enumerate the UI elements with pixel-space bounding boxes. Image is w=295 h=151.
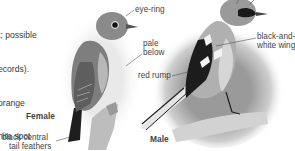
callout-tail-line2: tail feathers xyxy=(9,142,51,151)
callout-pale-below-line2: below xyxy=(143,48,164,58)
female-bird-figure xyxy=(56,10,142,150)
field-guide-page: t; possible ecords). orange hite spot ar… xyxy=(0,0,295,151)
female-caption: Female xyxy=(26,111,55,121)
callout-wing-line2: white wing xyxy=(257,41,295,51)
callout-red-rump: red rump xyxy=(138,71,171,81)
male-caption: Male xyxy=(150,134,169,144)
callout-eye-ring: eye-ring xyxy=(135,5,165,15)
